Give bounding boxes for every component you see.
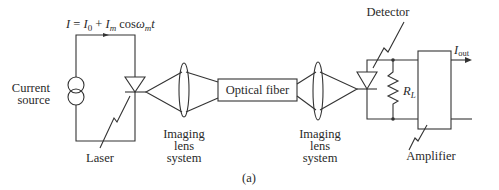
lens2-label-line3: system <box>303 151 338 165</box>
current-source-label-line2: source <box>17 93 50 107</box>
lens1-output-ray-bottom <box>186 98 218 112</box>
lens2-output-cone <box>320 72 357 110</box>
bottom-node-dot <box>391 117 395 121</box>
amplifier-label: Amplifier <box>406 149 456 163</box>
detector-diode-icon <box>357 72 377 89</box>
amplifier-box <box>418 51 451 129</box>
loop-bottom-wire <box>76 92 135 141</box>
lens1-label-line3: system <box>167 151 202 165</box>
detector-label: Detector <box>366 5 410 19</box>
laser-label: Laser <box>86 151 115 165</box>
loop-top-wire <box>76 35 135 77</box>
load-resistor-label: RL <box>402 84 416 100</box>
optical-fiber-label: Optical fiber <box>226 83 290 97</box>
laser-diode-icon <box>125 77 145 92</box>
top-node-dot <box>391 58 395 62</box>
lens1-output-ray-top <box>186 72 218 82</box>
lens1-input-cone <box>146 72 182 112</box>
current-source-circle-bottom <box>68 89 84 105</box>
current-direction-arrow-icon <box>103 33 109 37</box>
detector-circuit <box>357 22 472 150</box>
lens1-icon <box>179 63 189 117</box>
imaging-lens-system-1 <box>146 63 218 117</box>
output-current-label: Iout <box>453 43 470 58</box>
load-resistor-icon <box>388 60 398 119</box>
optical-link-diagram: I = I0 + Im cosωmt Current source Laser … <box>0 0 499 190</box>
detector-leader-line <box>373 22 404 68</box>
laser-leader-line <box>100 96 130 148</box>
imaging-lens-system-2 <box>297 62 357 120</box>
current-equation: I = I0 + Im cosωmt <box>65 17 155 33</box>
laser-drive-circuit <box>68 33 146 148</box>
lens2-icon <box>313 62 323 120</box>
figure-caption: (a) <box>242 171 256 185</box>
